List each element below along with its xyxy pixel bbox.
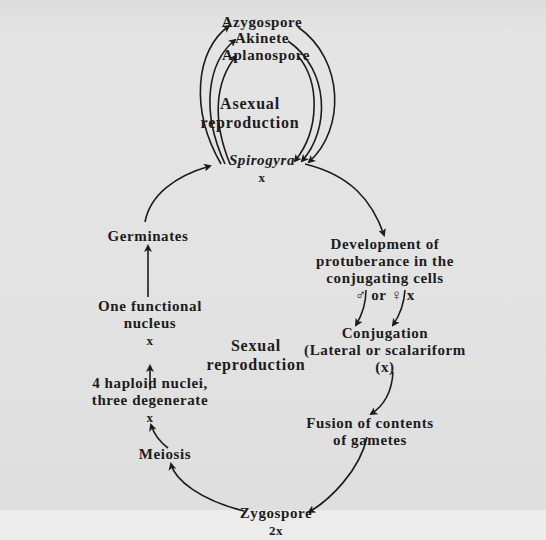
- zygospore-line1: Zygospore: [240, 505, 313, 522]
- fusion-line1: Fusion of contents: [306, 415, 433, 432]
- fusion-line2: of gametes: [306, 432, 433, 449]
- functional-line2: nucleus: [98, 315, 202, 332]
- arrow-to-haploid: [151, 425, 168, 448]
- label-meiosis: Meiosis: [139, 446, 192, 463]
- development-line2: protuberance in the: [316, 253, 454, 270]
- label-development: Development of protuberance in the conju…: [316, 236, 454, 304]
- conjugation-line2: (Lateral or scalariform: [304, 342, 466, 359]
- functional-line1: One functional: [98, 298, 202, 315]
- center-ploidy: x: [229, 169, 295, 186]
- functional-ploidy: x: [98, 332, 202, 349]
- asexual-title-line1: Asexual: [201, 94, 300, 113]
- zygospore-ploidy: 2x: [240, 522, 313, 539]
- asexual-section-title: Asexual reproduction: [201, 94, 300, 132]
- haploid-line2: three degenerate: [92, 392, 208, 409]
- arrow-to-fusion: [371, 372, 393, 414]
- development-line3: conjugating cells: [316, 270, 454, 287]
- center-label: Spirogyra: [229, 152, 295, 169]
- center-node: Spirogyra x: [229, 152, 295, 186]
- arrow-to-spirogyra: [145, 166, 210, 222]
- sexual-title-line1: Sexual: [207, 336, 306, 355]
- label-germinates: Germinates: [108, 228, 189, 245]
- label-aplanospore: Aplanospore: [222, 47, 310, 64]
- label-akinete: Akinete: [235, 30, 289, 47]
- sexual-title-line2: reproduction: [207, 355, 306, 374]
- asexual-title-line2: reproduction: [201, 113, 300, 132]
- arrow-to-meiosis: [171, 464, 244, 511]
- label-conjugation: Conjugation (Lateral or scalariform (x): [304, 325, 466, 376]
- label-fusion: Fusion of contents of gametes: [306, 415, 433, 449]
- label-functional-nucleus: One functional nucleus x: [98, 298, 202, 349]
- arrow-to-development: [305, 164, 384, 235]
- haploid-ploidy: x: [92, 409, 208, 426]
- conjugation-line1: Conjugation: [304, 325, 466, 342]
- label-haploid-nuclei: 4 haploid nuclei, three degenerate x: [92, 375, 208, 426]
- cycle-arrows: [0, 0, 546, 540]
- label-azygospore: Azygospore: [222, 14, 303, 31]
- label-zygospore: Zygospore 2x: [240, 505, 313, 539]
- haploid-line1: 4 haploid nuclei,: [92, 375, 208, 392]
- conjugation-ploidy: (x): [304, 359, 466, 376]
- development-gametes: ♂ or ♀ x: [316, 287, 454, 304]
- development-line1: Development of: [316, 236, 454, 253]
- sexual-section-title: Sexual reproduction: [207, 336, 306, 374]
